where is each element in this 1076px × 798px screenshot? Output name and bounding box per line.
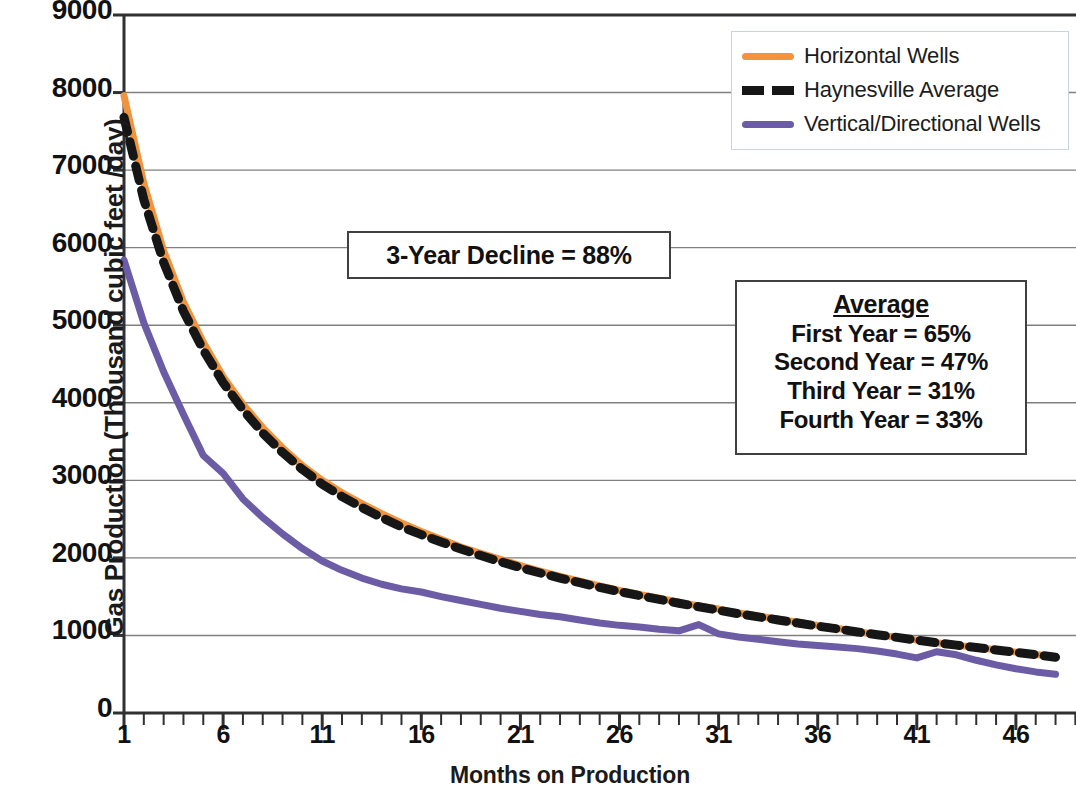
x-tick-label: 46: [986, 722, 1046, 747]
y-tick-label: 6000: [2, 229, 112, 257]
y-tick-label: 9000: [2, 0, 112, 24]
average-annotation-box: Average First Year = 65% Second Year = 4…: [735, 280, 1027, 455]
x-tick-label: 36: [788, 722, 848, 747]
legend-item-label: Haynesville Average: [804, 77, 999, 103]
x-tick-label: 41: [887, 722, 947, 747]
legend-swatch-dash-black-icon: [742, 77, 794, 103]
legend-swatch-solid-purple-icon: [742, 111, 794, 137]
legend-swatch-solid-orange-icon: [742, 43, 794, 69]
legend-item[interactable]: Vertical/Directional Wells: [742, 107, 1058, 141]
legend-item-label: Vertical/Directional Wells: [804, 111, 1040, 137]
average-annotation-line-4: Fourth Year = 33%: [737, 406, 1025, 435]
legend-item-label: Horizontal Wells: [804, 43, 959, 69]
legend-item[interactable]: Haynesville Average: [742, 73, 1058, 107]
y-tick-label: 7000: [2, 151, 112, 179]
y-tick-label: 8000: [2, 74, 112, 102]
y-tick-label: 1000: [2, 616, 112, 644]
y-tick-label: 2000: [2, 539, 112, 567]
y-tick-label: 0: [2, 694, 112, 722]
average-annotation-title: Average: [737, 289, 1025, 320]
decline-annotation-box: 3-Year Decline = 88%: [347, 231, 671, 279]
x-tick-label: 16: [391, 722, 451, 747]
average-annotation-line-1: First Year = 65%: [737, 320, 1025, 349]
y-tick-label: 4000: [2, 384, 112, 412]
average-annotation-line-3: Third Year = 31%: [737, 377, 1025, 406]
x-tick-label: 26: [590, 722, 650, 747]
y-tick-label: 3000: [2, 461, 112, 489]
chart-page: 0100020003000400050006000700080009000 16…: [0, 0, 1076, 798]
x-tick-label: 31: [689, 722, 749, 747]
legend-item[interactable]: Horizontal Wells: [742, 39, 1058, 73]
chart-legend: Horizontal WellsHaynesville AverageVerti…: [731, 31, 1069, 150]
x-axis-title: Months on Production: [120, 762, 1020, 789]
x-tick-label: 21: [490, 722, 550, 747]
y-axis-tick-labels: 0100020003000400050006000700080009000: [0, 0, 112, 798]
x-tick-label: 11: [292, 722, 352, 747]
x-tick-label: 6: [193, 722, 253, 747]
average-annotation-line-2: Second Year = 47%: [737, 348, 1025, 377]
y-axis-title: Gas Production (Thousand cubic feet /day…: [99, 28, 130, 728]
y-tick-label: 5000: [2, 306, 112, 334]
